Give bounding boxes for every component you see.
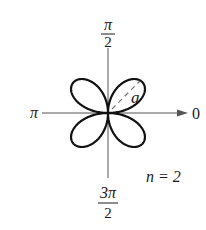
right-angle-label: 0 bbox=[192, 105, 200, 122]
axis-arrow-icon bbox=[177, 110, 188, 117]
bottom-angle-numerator: 3π bbox=[99, 184, 117, 201]
top-angle-denominator: 2 bbox=[104, 34, 112, 50]
top-angle-numerator: π bbox=[104, 16, 113, 33]
n-value-label: n = 2 bbox=[146, 168, 181, 185]
petal-length-label: a bbox=[131, 88, 140, 107]
bottom-angle-denominator: 2 bbox=[104, 205, 112, 221]
left-angle-label: π bbox=[30, 104, 39, 121]
polar-rose-diagram: a π 2 3π 2 π 0 n = 2 bbox=[0, 0, 206, 230]
